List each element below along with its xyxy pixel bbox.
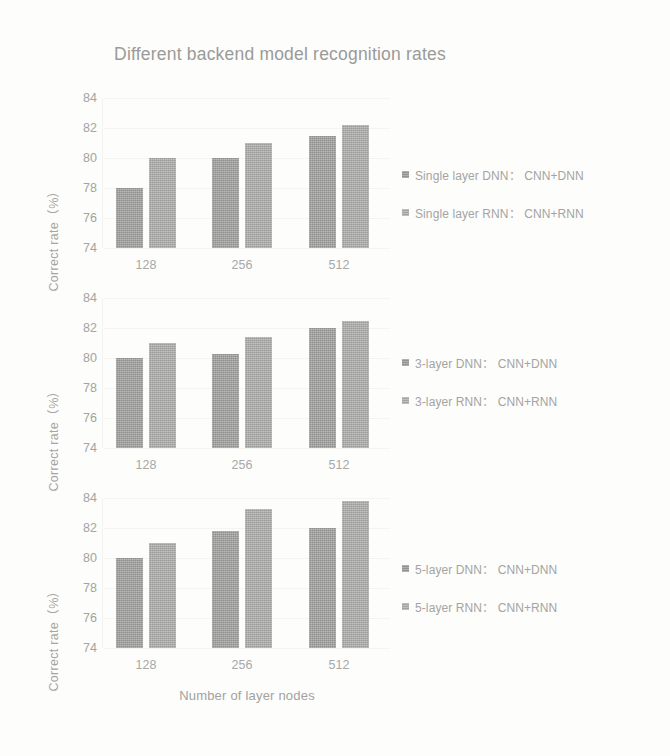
y-axis-tick-label: 76 [83,211,97,225]
legend-three-layer: 3-layer DNN： CNN+DNN3-layer RNN： CNN+RNN [402,354,652,430]
legend-swatch-square-icon [402,209,409,216]
y-axis-tick-label: 80 [83,351,97,365]
bar [245,509,272,649]
y-axis-tick-label: 84 [83,91,97,105]
legend-label: 5-layer RNN： CNN+RNN [415,598,557,615]
legend-swatch-square-icon [402,565,409,572]
gridline [104,248,390,249]
y-axis-tick-label: 74 [83,441,97,455]
legend-label: Single layer DNN： CNN+DNN [415,166,584,183]
y-axis-tick-label: 78 [83,581,97,595]
y-axis-tick-label: 76 [83,611,97,625]
y-axis-line [102,98,103,248]
bar [212,158,239,248]
legend-five-layer: 5-layer DNN： CNN+DNN5-layer RNN： CNN+RNN [402,560,652,636]
legend-item: 5-layer RNN： CNN+RNN [402,598,652,615]
y-axis-tick-label: 84 [83,291,97,305]
legend-label: Single layer RNN： CNN+RNN [415,204,584,221]
y-axis-tick-label: 82 [83,121,97,135]
bar [309,136,336,249]
bar [116,358,143,448]
x-axis-tick-label: 128 [116,658,176,672]
y-axis-line [102,298,103,448]
bar-group: 256 [212,98,272,248]
gridline [104,448,390,449]
x-axis-tick-label: 256 [212,658,272,672]
bar [116,558,143,648]
legend-item: 5-layer DNN： CNN+DNN [402,560,652,577]
legend-item: Single layer DNN： CNN+DNN [402,166,652,183]
legend-swatch-square-icon [402,359,409,366]
legend-swatch-square-icon [402,397,409,404]
plot-area-three-layer: 848280787674128256512 [104,298,390,448]
bar [309,528,336,648]
legend-swatch-square-icon [402,603,409,610]
legend-label: 3-layer RNN： CNN+RNN [415,392,557,409]
y-axis-label: Correct rate（%） [44,584,62,692]
y-axis-label: Correct rate（%） [44,384,62,492]
bar [212,354,239,449]
bar [309,328,336,448]
bar [245,143,272,248]
bar [149,543,176,648]
bar-group: 128 [116,298,176,448]
legend-item: 3-layer DNN： CNN+DNN [402,354,652,371]
x-axis-tick-label: 512 [309,658,369,672]
bar [342,501,369,648]
bar [342,321,369,449]
legend-item: 3-layer RNN： CNN+RNN [402,392,652,409]
bar-group: 512 [309,498,369,648]
chart-title: Different backend model recognition rate… [0,44,560,65]
gridline [104,648,390,649]
legend-item: Single layer RNN： CNN+RNN [402,204,652,221]
bar-group: 256 [212,298,272,448]
bar-group: 128 [116,98,176,248]
y-axis-tick-label: 82 [83,521,97,535]
y-axis-tick-label: 74 [83,241,97,255]
x-axis-label: Number of layer nodes [104,688,390,703]
x-axis-tick-label: 256 [212,258,272,272]
legend-label: 3-layer DNN： CNN+DNN [415,354,557,371]
y-axis-tick-label: 74 [83,641,97,655]
plot-area-single-layer: 848280787674128256512 [104,98,390,248]
y-axis-tick-label: 76 [83,411,97,425]
legend-label: 5-layer DNN： CNN+DNN [415,560,557,577]
x-axis-tick-label: 512 [309,458,369,472]
legend-swatch-square-icon [402,171,409,178]
x-axis-tick-label: 128 [116,258,176,272]
x-axis-tick-label: 128 [116,458,176,472]
plot-area-five-layer: 848280787674128256512 [104,498,390,648]
bar-group: 128 [116,498,176,648]
bar [149,158,176,248]
figure-container: Different backend model recognition rate… [0,0,670,756]
bar [149,343,176,448]
bar [116,188,143,248]
y-axis-tick-label: 78 [83,181,97,195]
y-axis-tick-label: 84 [83,491,97,505]
y-axis-tick-label: 80 [83,151,97,165]
y-axis-tick-label: 78 [83,381,97,395]
y-axis-label: Correct rate（%） [44,184,62,292]
legend-single-layer: Single layer DNN： CNN+DNNSingle layer RN… [402,166,652,242]
x-axis-tick-label: 512 [309,258,369,272]
y-axis-tick-label: 80 [83,551,97,565]
x-axis-tick-label: 256 [212,458,272,472]
bar-group: 512 [309,298,369,448]
y-axis-tick-label: 82 [83,321,97,335]
bar-group: 256 [212,498,272,648]
bar [245,337,272,448]
bar-group: 512 [309,98,369,248]
bar [212,531,239,648]
y-axis-line [102,498,103,648]
bar [342,125,369,248]
